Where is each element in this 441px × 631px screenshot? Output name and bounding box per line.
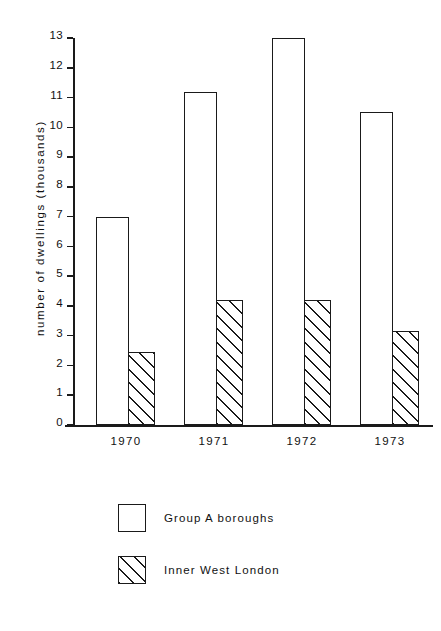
- legend-item-group-a-boroughs: Group A boroughs: [118, 503, 358, 533]
- y-axis-tick: 6: [67, 246, 73, 248]
- y-axis-tick: 11: [67, 97, 73, 99]
- y-axis-tick-label: 8: [56, 178, 63, 190]
- bar-1971-inner-west-london: [216, 300, 243, 425]
- legend-label: Inner West London: [164, 564, 280, 576]
- y-axis-tick-label: 11: [50, 89, 63, 101]
- bar-chart: number of dwellings (thousands) 01234567…: [0, 0, 441, 631]
- y-axis-tick: 5: [67, 275, 73, 277]
- y-axis-tick-label: 5: [56, 267, 63, 279]
- bar-1972-inner-west-london: [304, 300, 331, 425]
- x-axis-line: [65, 425, 433, 427]
- y-axis-tick: 8: [67, 186, 73, 188]
- y-axis-tick-label: 13: [49, 29, 63, 41]
- y-axis-tick-label: 6: [56, 238, 63, 250]
- y-axis-tick: 10: [67, 127, 73, 129]
- y-axis-tick-label: 10: [49, 119, 63, 131]
- legend-label: Group A boroughs: [164, 512, 274, 524]
- y-axis-tick: 0: [67, 424, 73, 426]
- bar-1973-group-a: [360, 112, 393, 425]
- y-axis-title: number of dwellings (thousands): [34, 18, 46, 438]
- x-axis-label-1973: 1973: [352, 435, 428, 447]
- legend-item-inner-west-london: Inner West London: [118, 555, 358, 585]
- y-axis-tick-label: 3: [56, 327, 63, 339]
- empty-square-icon: [118, 504, 146, 532]
- y-axis-tick-label: 9: [56, 148, 63, 160]
- y-axis-tick-label: 1: [56, 386, 63, 398]
- bar-1973-inner-west-london: [392, 331, 419, 425]
- y-axis-tick-label: 7: [56, 208, 63, 220]
- bar-1970-inner-west-london: [128, 352, 155, 425]
- y-axis-tick: 13: [67, 37, 73, 39]
- bar-1972-group-a: [272, 38, 305, 425]
- chart-legend: Group A boroughsInner West London: [118, 503, 358, 607]
- y-axis-tick: 12: [67, 67, 73, 69]
- y-axis-tick: 9: [67, 156, 73, 158]
- y-axis-tick-label: 4: [56, 297, 63, 309]
- y-axis-tick: 1: [67, 394, 73, 396]
- x-axis-label-1971: 1971: [176, 435, 252, 447]
- y-axis-line: [73, 38, 75, 425]
- x-axis-label-1970: 1970: [88, 435, 164, 447]
- y-axis-tick-label: 12: [49, 59, 63, 71]
- y-axis-tick: 4: [67, 305, 73, 307]
- y-axis-tick-label: 0: [56, 416, 63, 428]
- bar-1970-group-a: [96, 217, 129, 425]
- hatched-square-icon: [118, 556, 146, 584]
- y-axis-tick: 2: [67, 365, 73, 367]
- y-axis-tick-label: 2: [56, 357, 63, 369]
- y-axis-tick: 7: [67, 216, 73, 218]
- x-axis-label-1972: 1972: [264, 435, 340, 447]
- plot-area: 012345678910111213 1970197119721973: [73, 38, 433, 425]
- y-axis-tick: 3: [67, 335, 73, 337]
- bar-1971-group-a: [184, 92, 217, 425]
